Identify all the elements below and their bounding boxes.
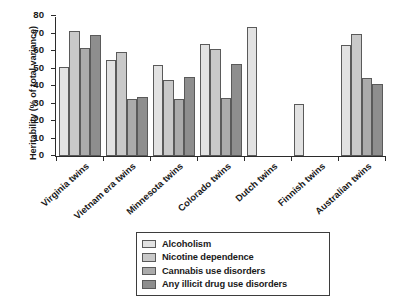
x-tick [385, 156, 386, 161]
chart-figure: Heritability (% of total variance) 01020… [0, 0, 412, 306]
bar [106, 60, 117, 156]
bar [362, 78, 373, 156]
x-axis-label: Dutch twins [234, 161, 280, 204]
legend-item: Alcoholism [142, 237, 323, 251]
bar [127, 99, 138, 156]
bar [200, 44, 211, 156]
bar [174, 99, 185, 156]
bar [341, 45, 352, 156]
bar-groups [56, 17, 385, 156]
legend-label: Cannabis use disorders [162, 266, 265, 276]
bar [247, 27, 258, 157]
y-tick-label: 20 [33, 114, 44, 125]
x-axis-label: Finnish twins [276, 161, 327, 208]
legend-item: Any illicit drug use disorders [142, 278, 323, 292]
bar [80, 48, 91, 157]
y-tick-label: 50 [33, 62, 44, 73]
bar [184, 77, 195, 156]
y-tick-label: 0 [39, 149, 44, 160]
legend-swatch [142, 253, 156, 262]
bar [351, 34, 362, 157]
bar [210, 49, 221, 156]
legend-swatch [142, 267, 156, 276]
plot-area: 01020304050607080 [55, 17, 385, 157]
y-tick-label: 70 [33, 27, 44, 38]
chart-legend: AlcoholismNicotine dependenceCannabis us… [136, 232, 330, 296]
bar [69, 31, 80, 156]
bar [153, 65, 164, 156]
legend-item: Nicotine dependence [142, 251, 323, 265]
bar-group [244, 17, 291, 156]
bar [116, 52, 127, 156]
bar-group [197, 17, 244, 156]
x-axis-labels: Virginia twinsVietnam era twinsMinnesota… [55, 159, 385, 217]
legend-label: Nicotine dependence [162, 252, 254, 262]
legend-swatch [142, 240, 156, 249]
legend-item: Cannabis use disorders [142, 264, 323, 278]
legend-label: Alcoholism [162, 239, 211, 249]
legend-swatch [142, 280, 156, 289]
bar-group [338, 17, 385, 156]
bar [59, 67, 70, 156]
bar [372, 84, 383, 156]
bar [137, 97, 148, 157]
x-axis-label: Virginia twins [39, 161, 90, 209]
bar [90, 35, 101, 156]
bar [231, 64, 242, 156]
bar [294, 104, 305, 157]
y-tick-80: 80 [51, 15, 56, 16]
bar [221, 98, 232, 156]
y-tick-label: 40 [33, 79, 44, 90]
bar-group [56, 17, 103, 156]
bar-group [150, 17, 197, 156]
y-tick-label: 10 [33, 132, 44, 143]
y-tick-label: 60 [33, 44, 44, 55]
y-tick-label: 30 [33, 97, 44, 108]
bar-group [103, 17, 150, 156]
bar-group [291, 17, 338, 156]
legend-label: Any illicit drug use disorders [162, 279, 287, 289]
y-tick-label: 80 [33, 9, 44, 20]
bar [163, 80, 174, 156]
